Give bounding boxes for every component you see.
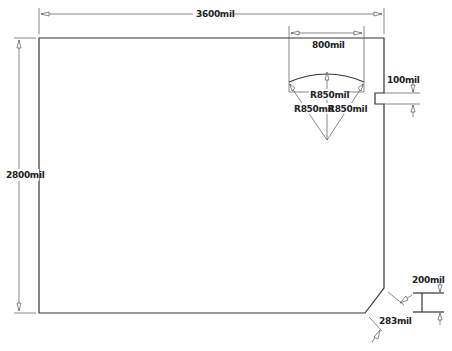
slot-height-label: 100mil [387, 75, 420, 85]
edge-offset-dimension: 200mil [412, 275, 445, 325]
radius-labels: R850mil R850mil R850mil [294, 89, 367, 114]
width-label: 3600mil [196, 9, 235, 19]
slot-dimension: 100mil [384, 75, 420, 117]
chamfer-label: 283mil [379, 316, 412, 326]
radius-right-label: R850mil [328, 104, 367, 114]
drawing-canvas: 3600mil 2800mil 800mil R850mil R850mil R… [0, 0, 452, 351]
board-outline [39, 38, 384, 313]
height-label: 2800mil [6, 170, 45, 180]
cutout-width-label: 800mil [312, 40, 345, 50]
width-dimension: 3600mil [39, 8, 384, 34]
edge-offset-label: 200mil [412, 275, 445, 285]
radius-center-label: R850mil [310, 90, 349, 100]
